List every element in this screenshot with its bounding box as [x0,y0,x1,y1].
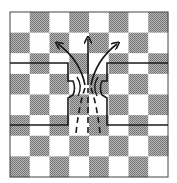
light-square [129,136,149,157]
light-square [50,136,70,157]
dark-square [10,156,30,177]
light-square [129,95,149,116]
dark-square [109,136,129,157]
light-square [148,156,168,177]
dark-square [30,12,50,33]
light-square [30,74,50,95]
dark-square [89,115,109,136]
dark-square [89,33,109,54]
light-square [148,74,168,95]
dark-square [50,156,70,177]
light-square [10,136,30,157]
light-square [30,33,50,54]
checkerboard-flow-diagram [0,0,177,183]
light-square [50,95,70,116]
dark-square [50,74,70,95]
light-square [109,74,129,95]
light-square [89,136,109,157]
light-square [50,12,70,33]
dark-square [148,136,168,157]
dark-square [109,12,129,33]
dark-square [148,12,168,33]
dark-square [109,95,129,116]
light-square [10,12,30,33]
dark-square [89,156,109,177]
light-square [69,33,89,54]
checkerboard [10,12,168,177]
dark-square [69,12,89,33]
dark-square [10,33,30,54]
light-square [109,156,129,177]
dark-square [129,74,149,95]
dark-square [10,74,30,95]
light-square [10,95,30,116]
dark-square [129,33,149,54]
light-square [89,12,109,33]
light-square [129,12,149,33]
dark-square [69,136,89,157]
light-square [69,156,89,177]
light-square [109,33,129,54]
dark-square [129,156,149,177]
light-square [148,33,168,54]
dark-square [148,95,168,116]
dark-square [30,136,50,157]
light-square [30,156,50,177]
light-square [69,115,89,136]
dark-square [30,95,50,116]
